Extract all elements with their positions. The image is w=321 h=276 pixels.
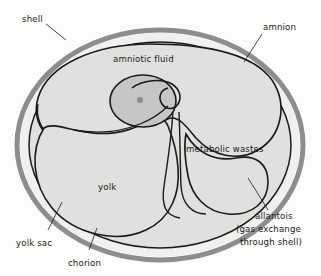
label-amnion: amnion bbox=[263, 22, 296, 32]
label-chorion: chorion bbox=[68, 258, 101, 268]
label-metabolic-wastes: metabolic wastes bbox=[186, 144, 264, 154]
label-yolk-sac: yolk sac bbox=[16, 238, 52, 248]
label-shell: shell bbox=[22, 14, 43, 24]
leader-shell bbox=[46, 24, 66, 40]
egg-cross-section-illustration: shell amnion amniotic fluid metabolic wa… bbox=[0, 0, 321, 276]
label-allantois: allantois bbox=[255, 211, 293, 221]
label-allantois-note-2: through shell) bbox=[240, 237, 302, 247]
amniotic-egg-diagram: shell amnion amniotic fluid metabolic wa… bbox=[0, 0, 321, 276]
embryo-eye-spot bbox=[137, 97, 143, 103]
label-yolk: yolk bbox=[98, 182, 116, 192]
label-amniotic-fluid: amniotic fluid bbox=[113, 54, 174, 64]
label-allantois-note-1: (gas exchange bbox=[236, 224, 301, 234]
